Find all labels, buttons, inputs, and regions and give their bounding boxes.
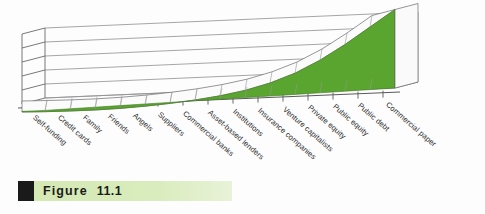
caption-label: Figure (34, 184, 88, 198)
wall-tick-5 (22, 42, 45, 48)
figure-caption: Figure 11.1 (18, 181, 232, 201)
caption-number: 11.1 (88, 184, 122, 198)
caption-banner: Figure 11.1 (34, 181, 232, 201)
wall-tick-2 (22, 84, 45, 90)
three-d-area-chart (0, 0, 485, 176)
left-depth-wall (22, 28, 45, 104)
figure-container: Self-funding Credit cards Family Friends… (0, 0, 485, 214)
square-bullet-icon (18, 181, 34, 201)
series-right-endcap (395, 4, 418, 89)
wall-tick-4 (22, 56, 45, 62)
wall-tick-3 (22, 70, 45, 76)
wall-tick-6 (22, 28, 45, 34)
